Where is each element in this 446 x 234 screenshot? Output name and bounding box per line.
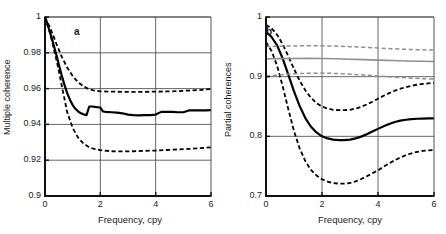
y-tick-label: 1 — [226, 11, 262, 21]
panel-a-multiple-coherence: Multiple coherence Frequency, cpy a 0.90… — [0, 0, 223, 234]
y-tick-label: 0.92 — [5, 154, 41, 164]
x-axis-label-panel-a: Frequency, cpy — [55, 214, 205, 225]
panel-label-b: b — [266, 26, 272, 37]
x-tick-label: 0 — [35, 199, 55, 209]
x-tick-label: 2 — [90, 199, 110, 209]
y-tick-label: 0.96 — [5, 83, 41, 93]
y-tick-label: 0.9 — [226, 71, 262, 81]
y-tick-label: 0.98 — [5, 47, 41, 57]
panel-label-a: a — [74, 26, 80, 37]
x-tick-label: 4 — [368, 199, 388, 209]
x-tick-label: 6 — [201, 199, 221, 209]
x-tick-label: 2 — [312, 199, 332, 209]
panel-b-partial-coherences: Partial coherences Frequency, cpy b 0.70… — [223, 0, 446, 234]
y-tick-label: 0.94 — [5, 118, 41, 128]
x-tick-label: 0 — [256, 199, 276, 209]
y-axis-label-panel-b: Partial coherences — [223, 32, 233, 167]
x-tick-label: 6 — [424, 199, 444, 209]
x-axis-label-panel-b: Frequency, cpy — [275, 214, 425, 225]
figure-two-panel-coherence: Multiple coherence Frequency, cpy a 0.90… — [0, 0, 446, 234]
x-tick-label: 4 — [146, 199, 166, 209]
y-tick-label: 0.8 — [226, 130, 262, 140]
y-tick-label: 1 — [5, 11, 41, 21]
